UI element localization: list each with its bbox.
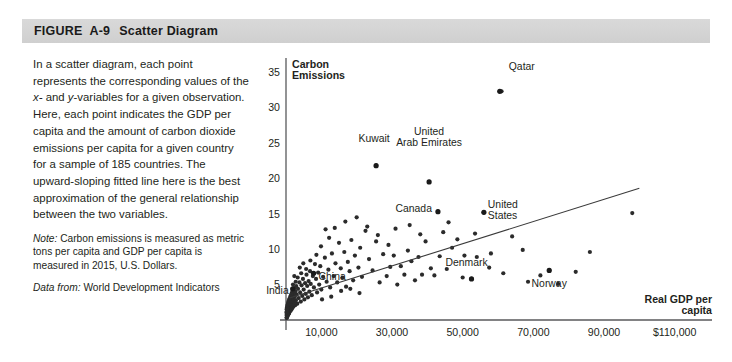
caption-block: In a scatter diagram, each point represe… <box>33 56 249 295</box>
point-label: Denmark <box>445 257 488 268</box>
data-point <box>356 266 360 270</box>
point-label: Qatar <box>509 61 536 72</box>
data-point <box>298 266 302 270</box>
point-label: Kuwait <box>359 133 390 144</box>
data-point <box>402 273 406 277</box>
data-point <box>385 274 389 278</box>
data-point <box>446 220 450 224</box>
data-point <box>432 273 436 277</box>
x-axis-title: capita <box>681 304 712 316</box>
data-point <box>406 249 410 253</box>
data-point <box>445 267 449 271</box>
y-tick-label: 35 <box>268 66 280 78</box>
figure-number: A-9 <box>89 24 110 38</box>
data-point <box>510 234 514 238</box>
annotated-data-point <box>311 271 316 276</box>
x-tick-label: $110,000 <box>653 326 697 338</box>
data-point <box>304 273 308 277</box>
data-point <box>333 226 337 230</box>
data-point <box>314 277 318 281</box>
figure-title-bar: FIGUREA-9Scatter Diagram <box>22 19 710 43</box>
scatter-plot-svg: 510152025303510,00030,00050,00070,00090,… <box>258 50 718 350</box>
data-point <box>420 273 424 277</box>
data-point <box>323 227 327 231</box>
data-point <box>319 244 323 248</box>
data-point <box>302 287 306 291</box>
data-point <box>630 211 634 215</box>
y-tick-label: 15 <box>268 208 280 220</box>
data-point <box>297 280 301 284</box>
y-tick-label: 10 <box>268 243 280 255</box>
data-point <box>487 266 491 270</box>
caption-body: In a scatter diagram, each point represe… <box>33 56 249 223</box>
data-point <box>358 246 362 250</box>
data-point <box>337 241 341 245</box>
data-point <box>588 250 592 254</box>
data-point <box>301 261 305 265</box>
data-point <box>285 316 289 320</box>
caption-body-part3: -variables for a given observation. Here… <box>33 91 245 220</box>
annotated-data-point <box>374 163 379 168</box>
caption-note-label: Note: <box>33 233 57 244</box>
data-point <box>378 280 382 284</box>
data-point <box>318 264 322 268</box>
data-point <box>313 262 317 266</box>
scatter-chart: 510152025303510,00030,00050,00070,00090,… <box>258 50 718 350</box>
data-point <box>285 310 289 314</box>
x-tick-label: 10,000 <box>305 326 338 338</box>
data-point <box>381 252 385 256</box>
data-point <box>320 297 324 301</box>
data-point <box>348 269 352 273</box>
data-point <box>423 239 427 243</box>
data-point <box>306 295 310 299</box>
data-point <box>408 223 412 227</box>
data-point <box>489 251 493 255</box>
data-point <box>312 285 316 289</box>
data-point <box>461 275 465 279</box>
caption-body-part2: and <box>43 91 68 103</box>
data-point <box>501 271 505 275</box>
data-point <box>438 254 442 258</box>
caption-note-text: Carbon emissions is measured as metric t… <box>33 233 244 271</box>
data-point <box>399 264 403 268</box>
data-point <box>473 232 477 236</box>
data-point <box>374 239 378 243</box>
x-tick-label: 50,000 <box>446 326 479 338</box>
data-point <box>365 224 369 228</box>
data-point <box>574 270 578 274</box>
data-point <box>393 227 397 231</box>
annotated-data-point <box>547 268 552 273</box>
y-tick-label: 20 <box>268 172 280 184</box>
data-point <box>317 282 321 286</box>
x-tick-label: 70,000 <box>517 326 550 338</box>
data-point <box>303 281 307 285</box>
annotated-data-point <box>290 286 295 291</box>
data-point <box>363 229 367 233</box>
data-point <box>349 238 353 242</box>
data-point <box>376 233 380 237</box>
data-point <box>330 251 334 255</box>
data-point <box>418 232 422 236</box>
data-point <box>344 285 348 289</box>
y-axis-title: Emissions <box>292 69 345 81</box>
data-point <box>343 219 347 223</box>
data-point <box>353 253 357 257</box>
data-point <box>304 267 308 271</box>
annotated-data-point <box>427 179 432 184</box>
data-point <box>455 237 459 241</box>
data-point <box>429 266 433 270</box>
x-tick-label: 30,000 <box>376 326 409 338</box>
data-point <box>301 277 305 281</box>
point-label: China <box>319 271 346 282</box>
data-point <box>395 282 399 286</box>
caption-source-text: World Development Indicators <box>81 282 220 293</box>
point-label: United <box>414 126 444 137</box>
data-point <box>386 243 390 247</box>
data-point <box>327 236 331 240</box>
point-label: India <box>266 285 289 296</box>
data-point <box>329 295 333 299</box>
point-label: Canada <box>396 203 433 214</box>
data-point <box>314 253 318 257</box>
figure-card: FIGUREA-9Scatter Diagram In a scatter di… <box>0 0 732 362</box>
x-tick-label: 90,000 <box>588 326 621 338</box>
